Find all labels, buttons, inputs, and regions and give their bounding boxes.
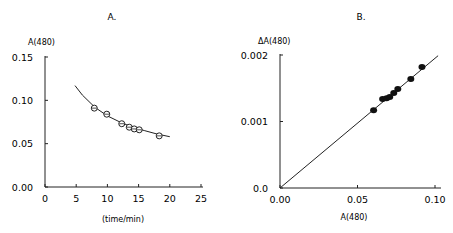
chart-title: A. bbox=[108, 12, 117, 22]
y-tick-label: 0.05 bbox=[12, 138, 33, 149]
y-tick-label: 0.15 bbox=[12, 52, 33, 63]
panel-b-chart: B.0.00.0010.0020.000.050.10ΔA(480)A(480) bbox=[241, 12, 446, 222]
data-point bbox=[418, 64, 425, 70]
x-tick-label: 5 bbox=[73, 193, 79, 204]
chart-title: B. bbox=[356, 12, 365, 22]
y-tick-label: 0.00 bbox=[12, 182, 33, 193]
x-tick-label: 0 bbox=[42, 193, 48, 204]
x-tick-label: 0.05 bbox=[347, 194, 368, 205]
y-axis-label: A(480) bbox=[28, 38, 55, 47]
y-axis-label: ΔA(480) bbox=[258, 37, 290, 46]
x-tick-label: 25 bbox=[195, 193, 207, 204]
data-point bbox=[407, 76, 414, 82]
y-tick-label: 0.001 bbox=[241, 116, 268, 127]
panel-a-chart: A.0.000.050.100.150510152025A(480)(time/… bbox=[12, 12, 207, 224]
y-tick-label: 0.002 bbox=[241, 50, 268, 61]
figure: A.0.000.050.100.150510152025A(480)(time/… bbox=[0, 0, 453, 233]
data-point bbox=[370, 107, 377, 113]
x-axis-label: A(480) bbox=[341, 213, 368, 222]
data-point bbox=[394, 86, 401, 92]
x-tick-label: 10 bbox=[101, 193, 113, 204]
x-tick-label: 0.00 bbox=[269, 194, 290, 205]
x-tick-label: 0.10 bbox=[424, 194, 445, 205]
x-tick-label: 15 bbox=[133, 193, 145, 204]
y-tick-label: 0.0 bbox=[253, 183, 268, 194]
x-axis-label: (time/min) bbox=[102, 215, 144, 224]
x-tick-label: 20 bbox=[164, 193, 176, 204]
fit-line bbox=[280, 56, 438, 188]
y-tick-label: 0.10 bbox=[12, 95, 33, 106]
fit-line bbox=[75, 86, 170, 137]
